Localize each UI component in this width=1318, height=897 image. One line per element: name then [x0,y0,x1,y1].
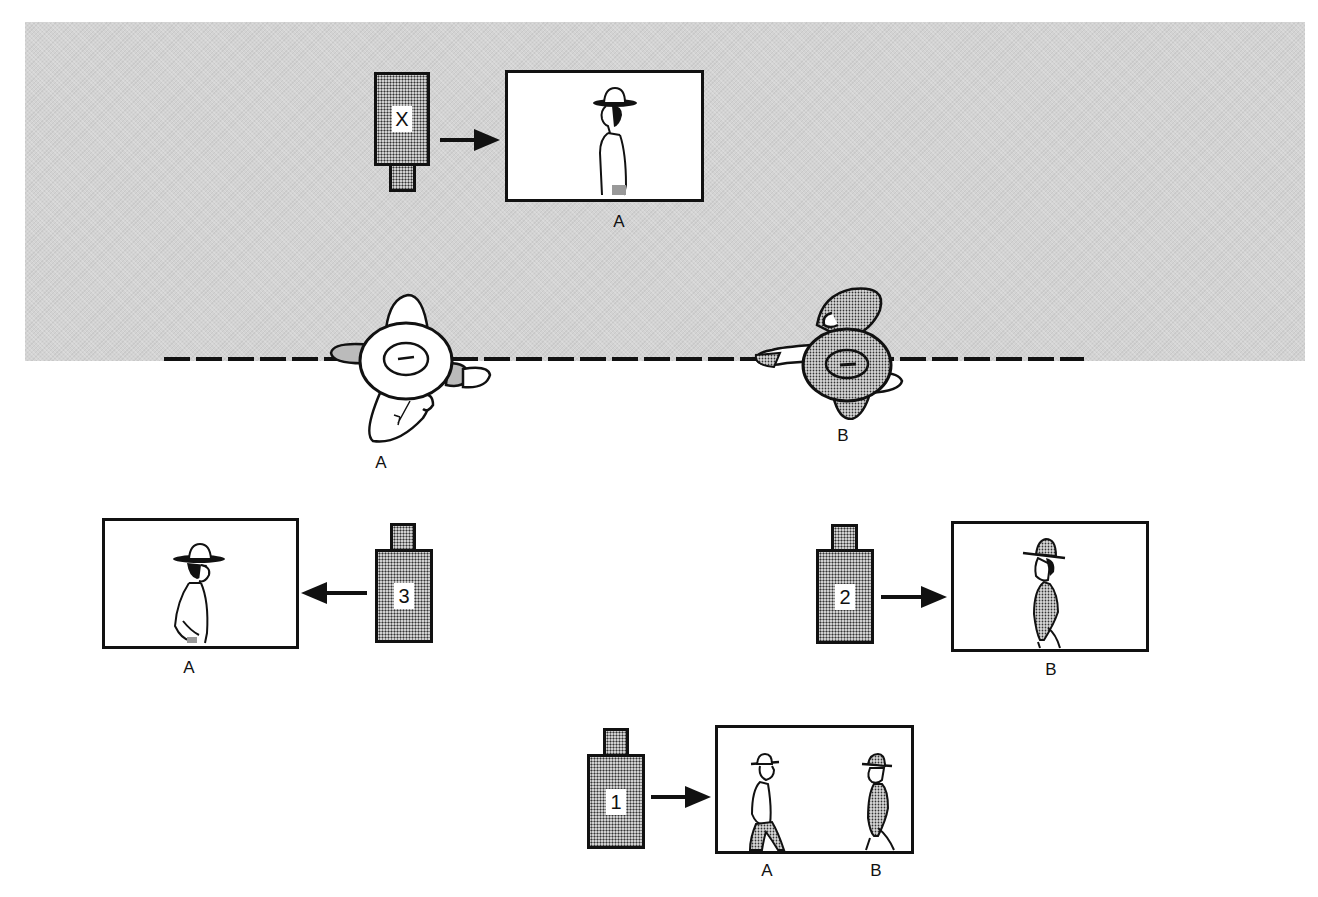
camera-body: 3 [375,549,433,643]
frame-camera-3 [102,518,299,649]
two-shot-a-and-b-icon [718,728,911,851]
overhead-a-label: A [366,453,396,473]
camera-lens [831,524,858,552]
camera-label: X [392,106,412,132]
camera-lens [390,523,416,552]
overhead-subject-b-icon [752,285,912,420]
camera-body: X [374,72,430,166]
camera-1: 1 [587,728,645,849]
arrow-right-icon [881,584,947,610]
frame-x-caption: A [604,212,634,232]
frame-camera-2 [951,521,1149,652]
overhead-b-label: B [828,426,858,446]
camera-body: 1 [587,754,645,849]
camera-label: 3 [394,583,414,609]
frame-3-caption: A [174,658,204,678]
arrow-right-icon [651,784,711,810]
arrow-right-icon [440,127,500,153]
arrow-left-icon [301,580,367,606]
overhead-subject-a-icon [328,293,493,445]
camera-label: 2 [835,584,855,610]
frame-2-caption: B [1036,660,1066,680]
person-b-profile-icon [954,524,1146,649]
camera-label: 1 [606,789,626,815]
camera-body: 2 [816,549,874,644]
axis-of-action-line [164,357,1084,361]
diagram-canvas: X A A [0,0,1318,897]
camera-2: 2 [816,524,874,644]
frame-1-caption-b: B [861,861,891,881]
frame-camera-x [505,70,704,202]
person-a-profile-icon [105,521,296,646]
camera-lens [389,163,416,192]
frame-1-caption-a: A [752,861,782,881]
person-a-profile-icon [508,73,701,199]
camera-lens [603,728,629,757]
camera-3: 3 [375,523,433,643]
frame-camera-1 [715,725,914,854]
camera-x: X [374,72,430,192]
